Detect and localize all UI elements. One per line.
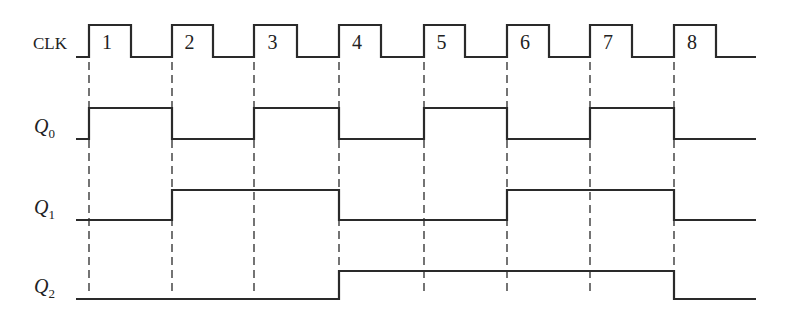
q1-label-sub: 1	[48, 207, 55, 222]
q0-label-main: Q	[34, 115, 49, 137]
q2-label-sub: 2	[48, 286, 55, 301]
clk-pulse-number: 4	[352, 31, 362, 53]
q0-label-sub: 0	[48, 126, 55, 141]
clk-pulse-number: 2	[185, 31, 195, 53]
q1-label-main: Q	[34, 196, 49, 218]
clk-signal: CLK 12345678	[33, 25, 756, 57]
q0-waveform	[76, 108, 756, 139]
clk-pulse-number: 1	[102, 31, 112, 53]
clock-edge-guides	[89, 62, 674, 296]
clk-label: CLK	[33, 34, 68, 53]
q1-label: Q1	[34, 196, 55, 222]
clk-pulse-number: 6	[520, 31, 530, 53]
clk-waveform	[76, 25, 756, 57]
clk-pulse-number: 8	[687, 31, 697, 53]
clk-pulse-numbers: 12345678	[102, 31, 697, 53]
q2-label: Q2	[34, 275, 55, 301]
q2-signal: Q2	[34, 271, 756, 301]
timing-diagram: CLK 12345678 Q0 Q1 Q2	[0, 0, 785, 321]
clk-pulse-number: 5	[437, 31, 447, 53]
q2-waveform	[76, 271, 756, 299]
q0-label: Q0	[34, 115, 55, 141]
clk-pulse-number: 7	[603, 31, 613, 53]
q0-signal: Q0	[34, 108, 756, 141]
q1-signal: Q1	[34, 190, 756, 222]
q1-waveform	[76, 190, 756, 220]
clk-pulse-number: 3	[268, 31, 278, 53]
q2-label-main: Q	[34, 275, 49, 297]
